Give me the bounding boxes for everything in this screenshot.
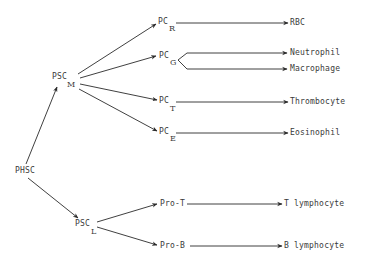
node-t-lymphocyte: T lymphocyte xyxy=(284,199,344,209)
node-macrophage: Macrophage xyxy=(290,64,340,74)
node-psc-m-subscript: M xyxy=(67,80,75,90)
node-neutrophil: Neutrophil xyxy=(290,48,340,58)
node-pc-t: PC xyxy=(159,96,169,106)
edge-pscm-pcr xyxy=(78,24,156,74)
edge-pcg-neutrophil xyxy=(178,53,287,60)
edge-phsc-pscl xyxy=(28,178,78,218)
edge-pscm-pce xyxy=(79,89,157,131)
node-phsc: PHSC xyxy=(15,166,35,176)
node-pc-r: PC xyxy=(158,17,168,27)
node-pc-r-subscript: R xyxy=(169,24,175,34)
edge-pcg-macrophage xyxy=(178,60,287,69)
node-pc-g: PC xyxy=(159,51,169,61)
node-psc-m: PSC xyxy=(52,72,67,82)
node-eosinophil: Eosinophil xyxy=(290,128,340,138)
node-pc-e-subscript: E xyxy=(170,134,176,144)
node-pc-e: PC xyxy=(159,127,169,137)
node-pro-b: Pro-B xyxy=(160,241,185,251)
node-pc-t-subscript: T xyxy=(170,104,175,114)
edge-phsc-pscm xyxy=(26,87,57,164)
edge-pscm-pct xyxy=(80,84,157,100)
node-rbc: RBC xyxy=(290,18,305,28)
node-psc-l: PSC xyxy=(75,219,90,229)
edge-pscl-prob xyxy=(97,227,157,245)
edge-pscl-prot xyxy=(97,204,157,222)
edge-pscm-pcg xyxy=(80,56,156,78)
node-thrombocyte: Thrombocyte xyxy=(290,97,345,107)
node-pro-t: Pro-T xyxy=(160,199,185,209)
node-pc-g-subscript: G xyxy=(170,58,176,68)
node-b-lymphocyte: B lymphocyte xyxy=(284,241,344,251)
node-psc-l-subscript: L xyxy=(91,227,96,237)
